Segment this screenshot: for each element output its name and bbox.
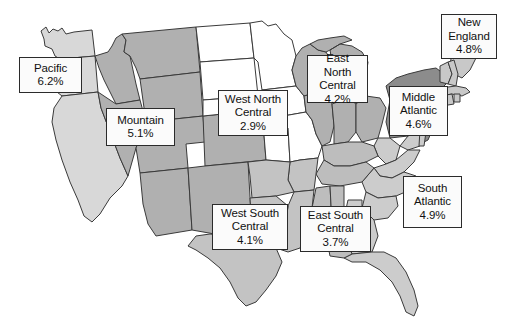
state-oklahoma	[248, 160, 294, 198]
state-minnesota	[250, 21, 296, 90]
region-value: 4.6%	[406, 118, 432, 132]
region-label-new-england: New England 4.8%	[441, 14, 497, 59]
state-north-dakota	[196, 23, 254, 62]
map-regions	[41, 21, 476, 316]
us-map-svg	[0, 0, 514, 328]
us-region-map-figure: Pacific 6.2% Mountain 5.1% West North Ce…	[0, 0, 514, 328]
region-name: New England	[448, 16, 490, 43]
region-label-east-south-central: East South Central 3.7%	[300, 206, 371, 252]
region-label-west-north-central: West North Central 2.9%	[218, 90, 288, 136]
region-value: 4.2%	[325, 93, 351, 107]
state-arizona	[140, 168, 192, 236]
region-value: 2.9%	[240, 120, 266, 134]
region-value: 4.1%	[237, 234, 263, 248]
region-value: 6.2%	[38, 75, 64, 89]
region-name: West South Central	[221, 207, 279, 234]
region-name: Pacific	[34, 62, 67, 76]
region-name: East North Central	[311, 52, 364, 93]
state-kentucky	[322, 142, 378, 166]
region-value: 4.9%	[420, 209, 446, 223]
region-name: Middle Atlantic	[400, 91, 437, 118]
region-name: West North Central	[225, 93, 281, 120]
region-label-east-north-central: East North Central 4.2%	[307, 55, 368, 103]
region-name: Mountain	[117, 114, 164, 128]
state-rhode-island	[454, 94, 460, 102]
region-label-middle-atlantic: Middle Atlantic 4.6%	[389, 86, 448, 136]
region-value: 5.1%	[128, 127, 154, 141]
state-arkansas	[288, 158, 318, 192]
state-florida	[344, 252, 418, 316]
region-value: 4.8%	[456, 43, 482, 57]
state-washington	[41, 27, 95, 59]
region-name: South Atlantic	[414, 182, 451, 209]
region-label-pacific: Pacific 6.2%	[19, 57, 82, 93]
region-label-south-atlantic: South Atlantic 4.9%	[403, 176, 462, 228]
region-label-mountain: Mountain 5.1%	[106, 108, 175, 146]
region-value: 3.7%	[323, 236, 349, 250]
region-label-west-south-central: West South Central 4.1%	[212, 204, 288, 250]
region-name: East South Central	[308, 209, 363, 236]
